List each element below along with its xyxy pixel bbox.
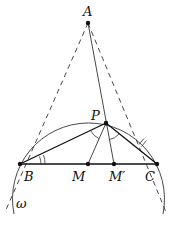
tick-mark-pc-1	[139, 139, 144, 145]
geometry-diagram: A P B M M′ C ω	[0, 0, 174, 229]
angle-mark-p-right	[109, 134, 119, 140]
segment-pm	[88, 123, 106, 164]
angle-mark-b	[40, 157, 42, 165]
circle-omega	[12, 123, 164, 214]
point-mprime	[112, 162, 116, 166]
angle-mark-p-left	[91, 130, 100, 138]
point-m	[86, 162, 90, 166]
point-b	[18, 162, 22, 166]
label-p: P	[90, 108, 100, 123]
tick-mark-pc-2	[142, 141, 147, 147]
label-c: C	[145, 169, 155, 184]
point-c	[155, 162, 159, 166]
segment-bp	[20, 123, 106, 164]
segment-pc	[106, 123, 157, 164]
label-a: A	[82, 4, 92, 19]
label-omega: ω	[16, 196, 27, 211]
point-a	[86, 21, 90, 25]
line-a-mprime	[88, 23, 114, 164]
angle-mark-b-2	[44, 155, 46, 164]
label-m: M	[71, 169, 86, 184]
point-p	[104, 121, 108, 125]
label-mprime: M′	[108, 169, 125, 184]
label-b: B	[23, 169, 34, 184]
